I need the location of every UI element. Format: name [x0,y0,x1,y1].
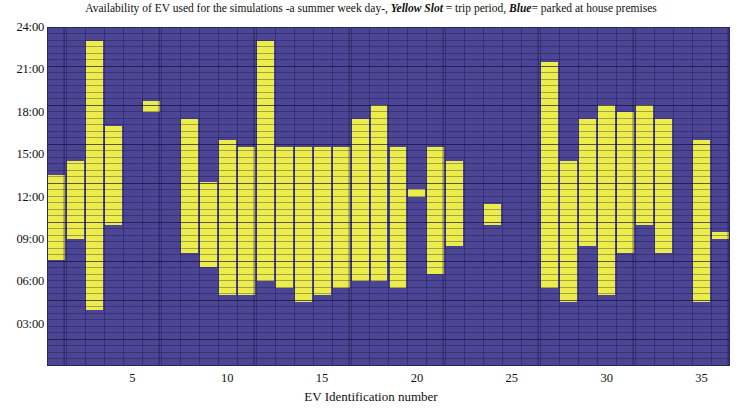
x-axis-tick-label: 15 [302,372,342,385]
x-axis-tick-label: 10 [207,372,247,385]
chart-root: Availability of EV used for the simulati… [0,0,742,410]
x-axis-tick-label: 35 [682,372,722,385]
x-axis-tick-label: 20 [397,372,437,385]
x-axis-tick-label: 30 [587,372,627,385]
x-axis-label: EV Identification number [0,389,742,405]
x-axis-tick-label: 5 [112,372,152,385]
x-axis: 5101520253035 [0,0,742,410]
x-axis-tick-label: 25 [492,372,532,385]
